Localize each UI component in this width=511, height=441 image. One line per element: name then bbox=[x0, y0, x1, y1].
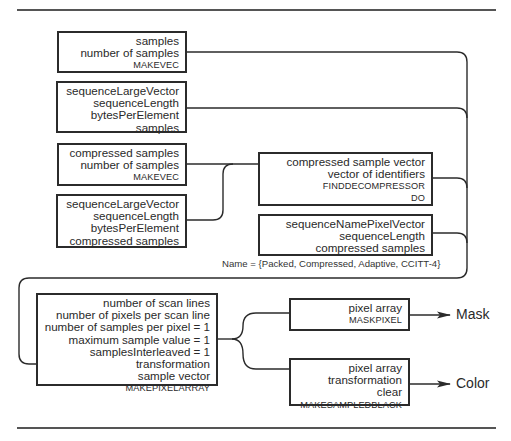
make-pixel-array-box: number of scan lines number of pixels pe… bbox=[36, 293, 218, 386]
sequence-large-vector-compressed-box: sequenceLargeVector sequenceLength bytes… bbox=[56, 194, 187, 248]
operator-label: DO bbox=[264, 192, 425, 204]
makevec-samples-box: samples number of samples MAKEVEC bbox=[57, 31, 187, 73]
box-line: pixel array bbox=[295, 302, 402, 314]
wire-decompressor-to-bus bbox=[432, 178, 467, 188]
mask-pixel-box: pixel array MASKPIXEL bbox=[289, 298, 410, 331]
box-line: compressed samples bbox=[62, 235, 179, 247]
box-line: number of samples per pixel = 1 bbox=[42, 321, 210, 333]
box-line: samples bbox=[62, 122, 179, 134]
wire-seqname-to-bus bbox=[432, 233, 467, 243]
wire-seq-samples-to-bus bbox=[186, 108, 467, 118]
operator-label: MAKEVEC bbox=[63, 171, 179, 183]
operator-label: MAKESAMPLEDBLACK bbox=[295, 399, 402, 411]
sequence-large-vector-samples-box: sequenceLargeVector sequenceLength bytes… bbox=[56, 81, 187, 133]
box-line: sample vector bbox=[42, 370, 210, 382]
operator-label: FINDDECOMPRESSOR bbox=[264, 180, 425, 192]
wire-seq-compressed-join bbox=[186, 164, 233, 220]
makevec-compressed-box: compressed samples number of samples MAK… bbox=[57, 143, 187, 186]
box-line: bytesPerElement bbox=[62, 109, 179, 121]
box-line: number of samples bbox=[63, 47, 179, 59]
box-line: compressed samples bbox=[264, 242, 425, 254]
find-decompressor-box: compressed sample vector vector of ident… bbox=[258, 152, 433, 206]
box-line: clear bbox=[295, 386, 402, 398]
box-line: bytesPerElement bbox=[62, 222, 179, 234]
mask-output-label: Mask bbox=[456, 306, 489, 322]
operator-label: MAKEPIXELARRAY bbox=[42, 382, 210, 394]
box-line: vector of identifiers bbox=[264, 168, 425, 180]
sequence-name-pixel-vector-box: sequenceNamePixelVector sequenceLength c… bbox=[258, 214, 433, 256]
name-set-note: Name = {Packed, Compressed, Adaptive, CC… bbox=[222, 258, 440, 269]
box-line: maximum sample value = 1 bbox=[42, 334, 210, 346]
make-sampled-black-box: pixel array transformation clear MAKESAM… bbox=[289, 358, 410, 406]
operator-label: MAKEVEC bbox=[63, 59, 179, 71]
box-line: number of samples bbox=[63, 159, 179, 171]
operator-label: MASKPIXEL bbox=[295, 314, 402, 326]
color-output-label: Color bbox=[456, 375, 489, 391]
